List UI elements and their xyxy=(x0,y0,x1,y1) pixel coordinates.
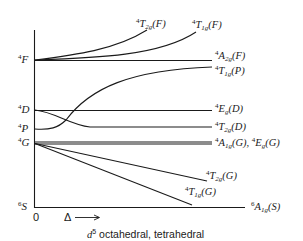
state-label-4T2g-G: 4T2g(G) xyxy=(206,170,237,183)
diagram-caption: d5 octahedral, tetrahedral xyxy=(87,228,204,241)
state-label-4T1g-F: 4T1g(F) xyxy=(192,19,222,32)
term-label-4G: 4G xyxy=(18,137,29,148)
curve-4T1g-P xyxy=(35,67,212,129)
state-label-4A1g-4Eg-G: 4A1g(G), 4Eg(G) xyxy=(215,137,280,150)
line-4T1g-G xyxy=(35,144,192,206)
term-label-4D: 4D xyxy=(18,104,29,115)
term-label-4F: 4F xyxy=(18,54,28,65)
delta-label: Δ xyxy=(64,212,71,223)
state-label-6A1g-S: 6A1g(S) xyxy=(251,201,280,214)
state-label-4A2g-F: 4A2g(F) xyxy=(215,50,245,63)
state-label-4T2g-F: 4T2g(F) xyxy=(136,18,166,31)
line-4T2g-G xyxy=(35,144,207,182)
state-label-4Eg-D: 4Eg(D) xyxy=(215,103,243,116)
x-origin-label: 0 xyxy=(33,212,39,223)
curve-4T1g-F xyxy=(35,32,196,60)
term-label-6S: 6S xyxy=(18,201,27,212)
term-label-4P: 4P xyxy=(18,123,28,134)
state-label-4T1g-G: 4T1g(G) xyxy=(185,186,216,199)
state-label-4T1g-P: 4T1g(P) xyxy=(215,65,245,78)
state-label-4T2g-D: 4T2g(D) xyxy=(215,121,246,134)
curve-4T2g-F xyxy=(35,30,147,60)
